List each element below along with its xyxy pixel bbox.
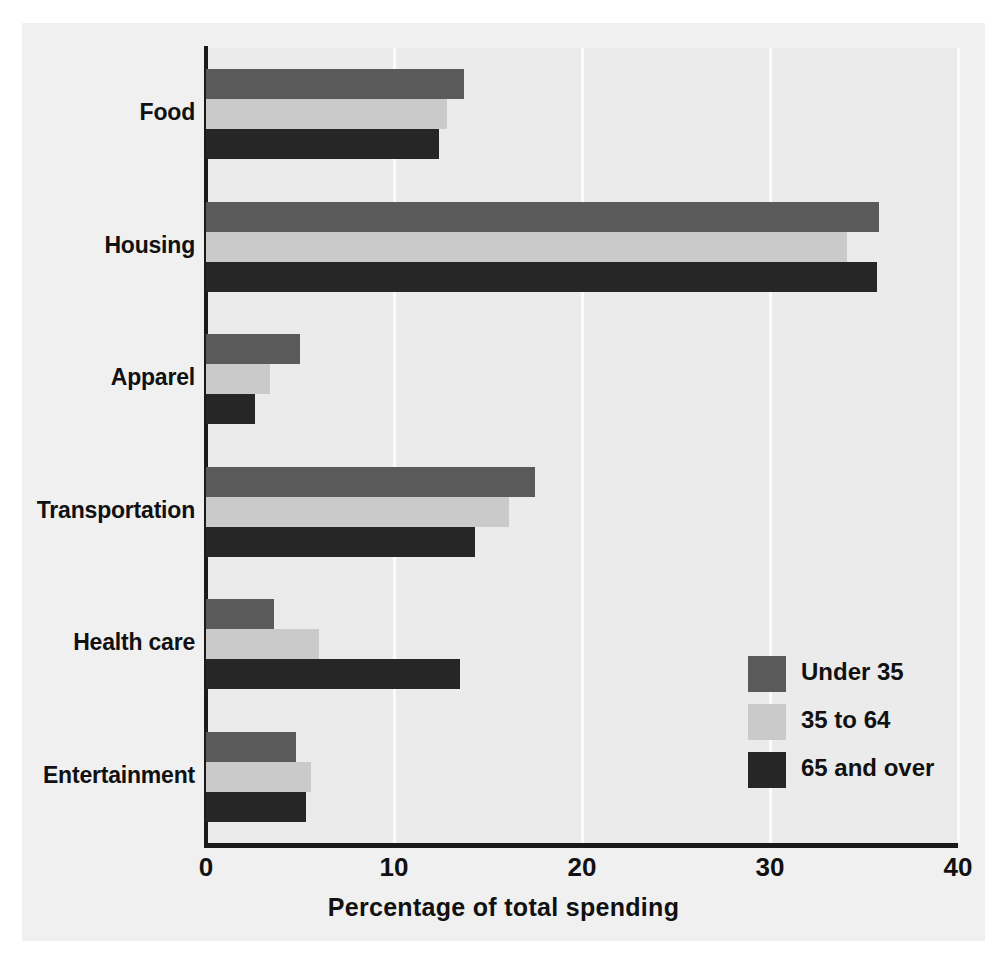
y-axis-line (204, 46, 208, 847)
x-tick-label: 10 (380, 852, 409, 883)
legend-swatch (748, 656, 786, 692)
chart-legend: Under 3535 to 6465 and over (748, 652, 958, 796)
x-tick-label: 20 (568, 852, 597, 883)
category-label: Transportation (37, 497, 195, 524)
category-label: Apparel (111, 364, 195, 391)
chart-figure: FoodHousingApparelTransportationHealth c… (0, 0, 1007, 975)
bar (206, 629, 319, 659)
legend-item[interactable]: Under 35 (748, 652, 958, 700)
bar (206, 262, 877, 292)
legend-swatch (748, 752, 786, 788)
category-label: Entertainment (43, 762, 195, 789)
bar-group: Housing (0, 202, 1007, 292)
bar (206, 467, 535, 497)
bar (206, 334, 300, 364)
bar (206, 129, 439, 159)
legend-label: Under 35 (801, 658, 904, 686)
bar (206, 659, 460, 689)
bar-group: Transportation (0, 467, 1007, 557)
legend-swatch (748, 704, 786, 740)
bar (206, 762, 311, 792)
bar (206, 599, 274, 629)
bar (206, 69, 464, 99)
x-tick-label: 30 (756, 852, 785, 883)
bar (206, 99, 447, 129)
bar (206, 394, 255, 424)
legend-label: 65 and over (801, 754, 934, 782)
bar (206, 232, 847, 262)
x-axis-line (204, 843, 958, 848)
x-tick-label: 40 (944, 852, 973, 883)
gridline-10 (393, 48, 396, 843)
legend-item[interactable]: 35 to 64 (748, 700, 958, 748)
bar (206, 202, 879, 232)
category-label: Food (140, 99, 195, 126)
bar (206, 732, 296, 762)
bar-group: Apparel (0, 334, 1007, 424)
x-tick-label: 0 (199, 852, 213, 883)
legend-label: 35 to 64 (801, 706, 890, 734)
bar (206, 792, 306, 822)
legend-item[interactable]: 65 and over (748, 748, 958, 796)
bar (206, 527, 475, 557)
x-axis-title: Percentage of total spending (0, 893, 1007, 922)
bar (206, 364, 270, 394)
category-label: Health care (73, 629, 195, 656)
category-label: Housing (104, 232, 195, 259)
gridline-20 (581, 48, 584, 843)
bar (206, 497, 509, 527)
bar-group: Food (0, 69, 1007, 159)
